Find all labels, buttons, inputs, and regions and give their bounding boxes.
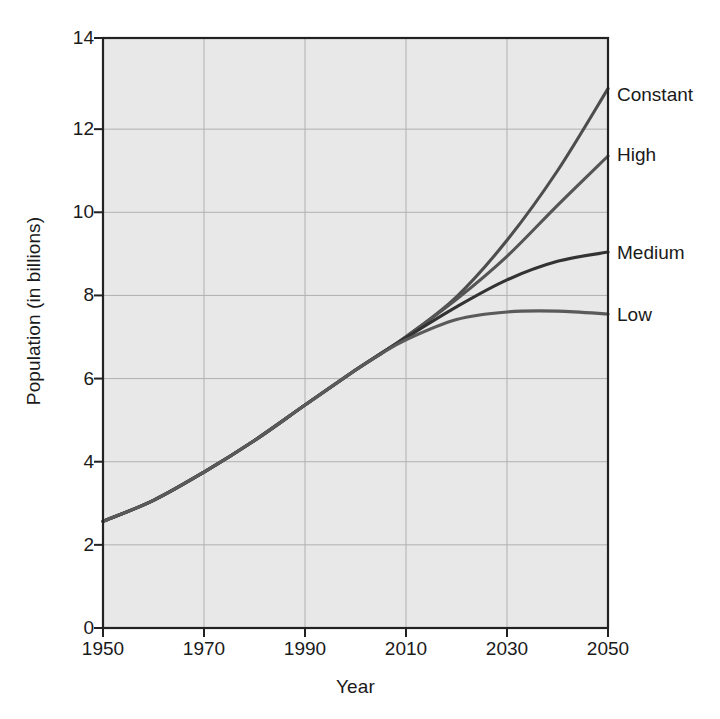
x-axis-title: Year — [103, 676, 608, 698]
y-tick-label: 2 — [50, 535, 94, 554]
x-tick-label-2010: 2010 — [361, 638, 451, 660]
y-tick-label: 8 — [50, 285, 94, 304]
y-tick-label: 10 — [50, 202, 94, 221]
x-tick-label-1990: 1990 — [260, 638, 350, 660]
series-label-low: Low — [617, 305, 652, 324]
plot-background — [103, 38, 608, 628]
x-tick-label-2030: 2030 — [462, 638, 552, 660]
y-tick-label: 12 — [50, 119, 94, 138]
chart-canvas — [0, 0, 720, 719]
y-tick-marks — [94, 38, 103, 628]
population-projection-chart: 14 12 10 8 6 4 2 0 1950 1970 1990 2010 2… — [0, 0, 720, 719]
y-tick-label: 4 — [50, 452, 94, 471]
x-tick-label-2050: 2050 — [563, 638, 653, 660]
y-tick-label: 0 — [50, 618, 94, 637]
x-tick-marks — [103, 628, 608, 637]
series-label-medium: Medium — [617, 243, 685, 262]
series-label-constant: Constant — [617, 85, 693, 104]
x-tick-label-1950: 1950 — [58, 638, 148, 660]
y-tick-label: 6 — [50, 369, 94, 388]
series-label-high: High — [617, 145, 656, 164]
y-axis-title: Population (in billions) — [17, 16, 51, 606]
y-tick-label: 14 — [50, 28, 94, 47]
x-tick-label-1970: 1970 — [159, 638, 249, 660]
